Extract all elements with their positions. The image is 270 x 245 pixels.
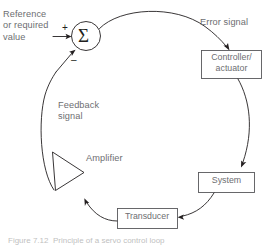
plus-sign-label: +	[62, 23, 68, 33]
transducer-to-amplifier-arc	[84, 198, 117, 221]
transducer-label: Transducer	[117, 211, 177, 222]
controller-to-system-arc	[238, 79, 249, 168]
controller-actuator-label: Controller/ actuator	[201, 52, 262, 73]
system-label: System	[198, 175, 255, 186]
reference-input-label: Reference or required value	[3, 9, 49, 43]
amplifier-triangle	[53, 152, 85, 191]
block-diagram-figure: Reference or required value + – Σ Error …	[0, 0, 270, 245]
error-signal-label: Error signal	[200, 17, 248, 28]
feedback-signal-label: Feedback signal	[58, 100, 99, 123]
minus-sign-label: –	[71, 55, 77, 65]
amplifier-label: Amplifier	[86, 153, 123, 164]
system-to-transducer-arc	[178, 193, 215, 220]
sigma-symbol: Σ	[78, 26, 89, 45]
figure-caption: Figure 7.12 Principle of a servo control…	[8, 236, 268, 245]
reference-input-arrow	[53, 34, 72, 39]
